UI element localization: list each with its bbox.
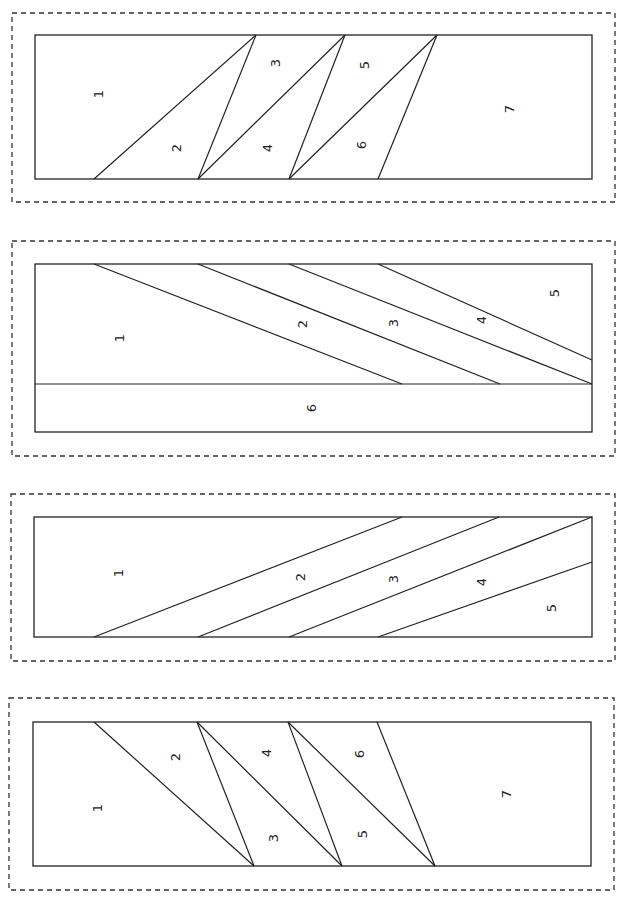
seam-line: [198, 264, 500, 384]
seam-line: [197, 722, 342, 866]
seam-line: [94, 517, 402, 637]
piece-number-label: 7: [502, 105, 517, 113]
panel-3: 12345: [11, 494, 615, 661]
seam-line: [289, 35, 437, 179]
piece-number-label: 5: [547, 289, 562, 297]
seam-line: [94, 35, 256, 179]
piece-number-label: 2: [293, 573, 308, 581]
piece-number-label: 3: [386, 575, 401, 583]
seam-line: [289, 264, 592, 384]
piece-number-label: 6: [304, 404, 319, 412]
seam-allowance-border: [12, 13, 615, 202]
piece-number-label: 5: [357, 61, 372, 69]
piece-number-label: 3: [268, 59, 283, 67]
piece-number-label: 1: [91, 90, 106, 98]
panel-2: 123456: [12, 241, 615, 456]
piece-number-label: 2: [168, 753, 183, 761]
seam-line: [94, 722, 254, 866]
piece-number-label: 3: [266, 834, 281, 842]
piece-number-label: 4: [260, 144, 275, 152]
seam-allowance-border: [11, 494, 615, 661]
piece-number-label: 2: [295, 320, 310, 328]
seam-line: [198, 35, 256, 179]
panel-1: 1234567: [12, 13, 615, 202]
seam-line: [94, 264, 402, 384]
piece-number-label: 2: [169, 144, 184, 152]
piece-number-label: 5: [355, 830, 370, 838]
piece-number-label: 6: [352, 750, 367, 758]
piece-number-label: 1: [90, 804, 105, 812]
piece-number-label: 4: [259, 749, 274, 757]
seam-line: [197, 722, 254, 866]
seam-line: [377, 722, 435, 866]
seam-line: [289, 517, 592, 637]
seam-line: [289, 35, 345, 179]
piece-number-label: 1: [111, 569, 126, 577]
piece-number-label: 4: [474, 578, 489, 586]
pattern-canvas: 1234567123456123451234567: [0, 0, 625, 901]
seam-line: [198, 517, 499, 637]
piece-number-label: 7: [499, 790, 514, 798]
piece-number-label: 5: [544, 604, 559, 612]
seam-line: [288, 722, 342, 866]
piece-number-label: 1: [112, 334, 127, 342]
panel-4: 1234567: [9, 698, 614, 890]
seam-line: [288, 722, 435, 866]
seam-line: [378, 562, 592, 637]
seam-line: [378, 35, 437, 179]
piece-number-label: 6: [354, 141, 369, 149]
seam-line: [198, 35, 345, 179]
piece-number-label: 4: [474, 316, 489, 324]
piece-number-label: 3: [386, 319, 401, 327]
